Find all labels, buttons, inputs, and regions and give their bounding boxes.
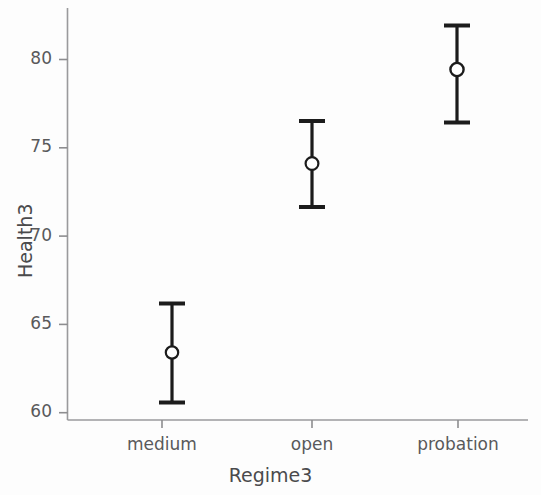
x-tick-label-probation: probation <box>388 434 528 454</box>
x-tick-label-medium: medium <box>92 434 232 454</box>
plot-canvas <box>0 0 541 495</box>
y-tick-label-65: 65 <box>12 313 52 333</box>
x-axis-title: Regime3 <box>0 464 541 486</box>
y-tick-label-80: 80 <box>12 48 52 68</box>
y-tick-label-60: 60 <box>12 401 52 421</box>
datapoint-medium <box>166 346 178 358</box>
datapoint-probation <box>450 63 463 76</box>
y-tick-label-75: 75 <box>12 136 52 156</box>
error-bar-chart: 80 75 70 65 60 medium open probation Hea… <box>0 0 541 495</box>
datapoint-open <box>306 157 319 170</box>
x-tick-label-open: open <box>242 434 382 454</box>
y-axis-title: Health3 <box>14 204 36 278</box>
